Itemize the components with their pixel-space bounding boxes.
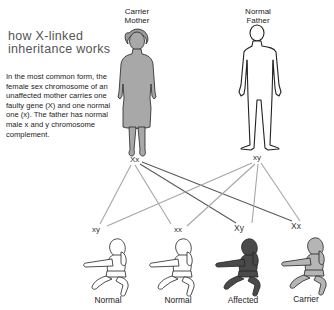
child3-baby bbox=[216, 239, 260, 296]
child2-genotype: xx bbox=[174, 225, 182, 234]
mother-genotype: Xx bbox=[130, 155, 139, 164]
line-father-x-to-child4 bbox=[261, 163, 300, 221]
child1-genotype: xy bbox=[92, 225, 100, 234]
mother-body bbox=[118, 49, 156, 129]
line-father-x-to-child2 bbox=[187, 164, 255, 226]
mother-head bbox=[130, 32, 145, 50]
child4-baby bbox=[282, 238, 326, 295]
father-genotype: xy bbox=[253, 153, 261, 162]
father-figure bbox=[239, 25, 281, 150]
line-father-y-to-child3 bbox=[252, 164, 258, 223]
line-mother-x-to-child2 bbox=[135, 165, 171, 224]
child1-label: Normal bbox=[78, 295, 138, 305]
father-body bbox=[239, 41, 281, 150]
father-head bbox=[250, 25, 264, 41]
child4-label: Carrier bbox=[276, 294, 334, 304]
child3-genotype: Xy bbox=[234, 223, 245, 233]
line-mother-x-to-child1 bbox=[100, 165, 131, 224]
child1-baby bbox=[84, 239, 128, 296]
line-mother-X-to-child4 bbox=[142, 162, 292, 221]
mother-figure bbox=[118, 29, 156, 156]
child4-genotype: Xx bbox=[291, 221, 302, 231]
child2-baby bbox=[150, 239, 194, 296]
inheritance-diagram: Xx xy xy xx Xy Xx bbox=[0, 0, 334, 310]
line-father-y-to-child1 bbox=[107, 163, 252, 226]
child3-label: Affected bbox=[213, 295, 273, 305]
child2-label: Normal bbox=[148, 295, 208, 305]
mother-legs bbox=[129, 127, 145, 156]
